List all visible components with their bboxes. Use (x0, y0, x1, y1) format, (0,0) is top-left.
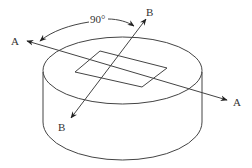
angle-arc-left (40, 22, 89, 41)
cylinder-top-face (43, 37, 202, 104)
axis-a-line (27, 41, 227, 100)
axis-b-label-bottom: B (58, 121, 65, 133)
axis-a-label-right: A (233, 96, 241, 108)
diagram-canvas: 90° A A B B (0, 0, 252, 168)
axis-b-label-top: B (146, 6, 153, 18)
angle-arc-right (108, 19, 134, 26)
angle-label: 90° (90, 13, 105, 25)
cylinder (43, 37, 202, 160)
axis-a-label-left: A (11, 35, 19, 47)
